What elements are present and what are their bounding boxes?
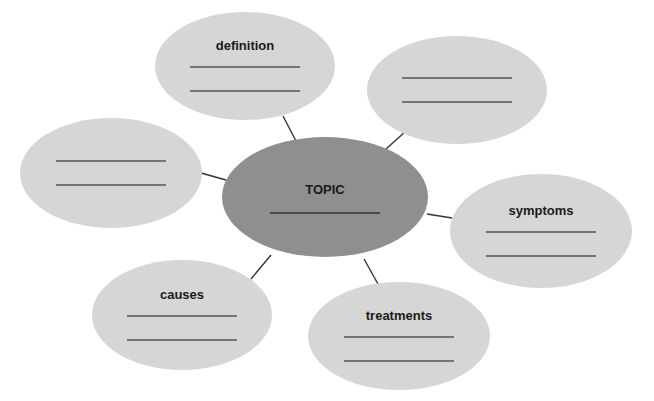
center-ellipse xyxy=(222,137,428,257)
connector-top-right xyxy=(386,131,406,149)
node-symptoms-ellipse xyxy=(450,174,632,288)
connector-symptoms xyxy=(427,214,452,218)
center-topic-label: TOPIC xyxy=(305,182,345,197)
connector-left xyxy=(201,173,226,180)
connector-definition xyxy=(283,116,296,141)
concept-map: definitionsymptomscausestreatments TOPIC xyxy=(0,0,654,401)
node-left xyxy=(20,118,202,228)
node-symptoms: symptoms xyxy=(450,174,632,288)
node-top-right xyxy=(367,36,547,144)
node-causes: causes xyxy=(92,260,272,370)
node-definition-label: definition xyxy=(216,38,275,53)
node-symptoms-label: symptoms xyxy=(508,203,573,218)
node-treatments-ellipse xyxy=(308,282,490,390)
node-left-ellipse xyxy=(20,118,202,228)
node-treatments-label: treatments xyxy=(366,308,432,323)
node-definition: definition xyxy=(155,12,335,120)
node-causes-ellipse xyxy=(92,260,272,370)
center-node: TOPIC xyxy=(222,137,428,257)
node-definition-ellipse xyxy=(155,12,335,120)
node-causes-label: causes xyxy=(160,287,204,302)
node-top-right-ellipse xyxy=(367,36,547,144)
connector-causes xyxy=(251,255,271,279)
node-treatments: treatments xyxy=(308,282,490,390)
connector-treatments xyxy=(364,259,378,284)
